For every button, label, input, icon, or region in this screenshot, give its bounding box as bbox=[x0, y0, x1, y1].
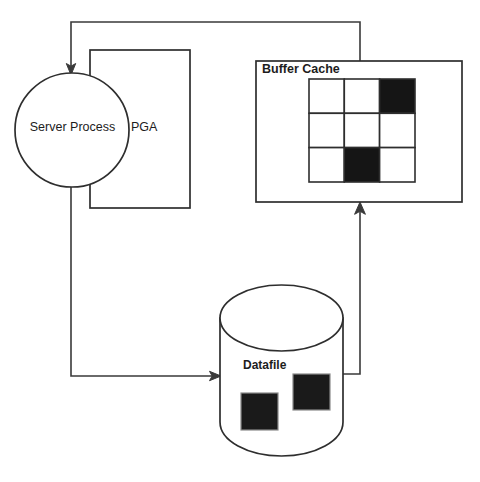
buffer-cache-grid bbox=[309, 79, 415, 182]
datafile-label: Datafile bbox=[243, 359, 286, 371]
datafile-block-2 bbox=[293, 374, 330, 410]
buffer-cell-r2c2 bbox=[380, 148, 415, 182]
buffer-cell-r0c2 bbox=[380, 79, 415, 113]
buffer-cell-r2c1 bbox=[344, 148, 379, 182]
connector-line-datafile-to-buffer bbox=[343, 212, 360, 374]
diagram-vector-layer bbox=[0, 0, 480, 482]
connector-server-process-to-datafile bbox=[71, 186, 221, 381]
buffer-cache-label: Buffer Cache bbox=[262, 63, 340, 76]
buffer-cell-r0c0 bbox=[309, 79, 344, 113]
pga-label: PGA bbox=[131, 121, 157, 134]
connector-datafile-to-buffer-cache bbox=[343, 202, 365, 374]
buffer-cell-r0c1 bbox=[344, 79, 379, 113]
datafile-cylinder-top bbox=[220, 285, 343, 351]
connector-line-server-to-datafile bbox=[71, 186, 213, 376]
buffer-cell-r1c1 bbox=[344, 113, 379, 147]
buffer-cell-r1c2 bbox=[380, 113, 415, 147]
server-process-label: Server Process bbox=[24, 121, 121, 134]
diagram-canvas: Server Process PGA Buffer Cache Datafile bbox=[0, 0, 480, 482]
buffer-cell-r1c0 bbox=[309, 113, 344, 147]
buffer-cell-r2c0 bbox=[309, 148, 344, 182]
datafile-block-1 bbox=[241, 393, 278, 430]
